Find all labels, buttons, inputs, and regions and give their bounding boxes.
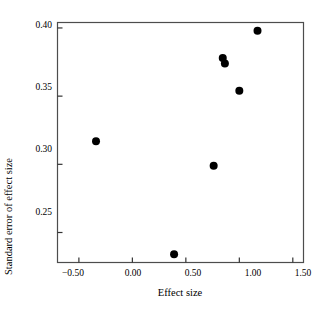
plot-canvas [0,0,324,312]
data-point [210,162,218,170]
data-point [221,59,229,67]
data-point [92,137,100,145]
data-point [170,250,178,258]
data-point [254,27,262,35]
funnel-plot-figure: Standard error of effect size Effect siz… [0,0,324,312]
data-point [235,87,243,95]
